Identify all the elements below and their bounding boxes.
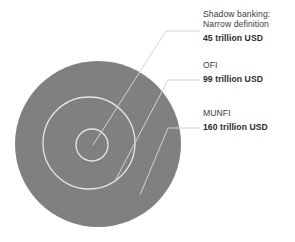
callout-title-shadow-banking-narrow: Shadow banking: Narrow definition xyxy=(203,9,295,30)
callout-munfi: MUNFI 160 trillion USD xyxy=(203,108,295,132)
callout-value-ofi: 99 trillion USD xyxy=(203,74,295,84)
callout-ofi: OFI 99 trillion USD xyxy=(203,60,295,84)
callout-value-shadow-banking-narrow: 45 trillion USD xyxy=(203,33,295,43)
callout-labels-layer: Shadow banking: Narrow definition 45 tri… xyxy=(0,0,295,242)
callout-title-ofi: OFI xyxy=(203,60,295,70)
shadow-banking-concentric-diagram: Shadow banking: Narrow definition 45 tri… xyxy=(0,0,295,242)
callout-value-munfi: 160 trillion USD xyxy=(203,122,295,132)
callout-shadow-banking-narrow: Shadow banking: Narrow definition 45 tri… xyxy=(203,9,295,44)
callout-title-munfi: MUNFI xyxy=(203,108,295,118)
